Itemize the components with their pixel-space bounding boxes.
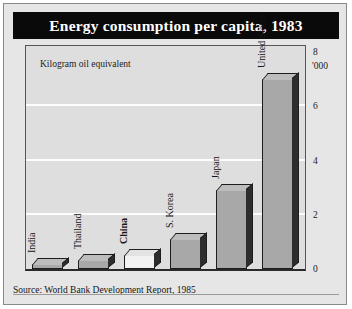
y-axis-tick-label: 8 xyxy=(313,48,318,57)
plot-annotation: Kilogram oil equivalent xyxy=(40,59,131,69)
bar-side-face xyxy=(246,183,253,268)
bar-label: India xyxy=(26,232,37,253)
bar[interactable] xyxy=(170,239,201,269)
y-axis-tick-label: 0 xyxy=(313,265,318,274)
page-title: Energy consumption per capita, 1983 xyxy=(13,12,339,39)
title-bar: Energy consumption per capita, 1983 xyxy=(13,12,339,39)
bar-label: Japan xyxy=(210,157,221,180)
bar[interactable] xyxy=(262,79,293,269)
y-axis-unit-label: '000 xyxy=(312,61,328,71)
bar-side-face xyxy=(292,72,299,268)
bar-label: S. Korea xyxy=(164,193,175,228)
footer-divider xyxy=(13,294,339,295)
bar[interactable] xyxy=(216,190,247,269)
bar[interactable] xyxy=(78,260,109,269)
y-axis-tick-label: 2 xyxy=(313,211,318,220)
bar-side-face xyxy=(200,232,207,268)
plot-area: Kilogram oil equivalent IndiaThailandChi… xyxy=(25,45,306,271)
bar-side-face xyxy=(154,249,161,268)
y-axis-tick-label: 4 xyxy=(313,157,318,166)
bar[interactable] xyxy=(32,264,63,269)
figure-panel: Energy consumption per capita, 1983 Kilo… xyxy=(3,3,347,305)
y-axis: '000 86420 xyxy=(309,45,349,277)
plot-wrapper: Kilogram oil equivalent IndiaThailandChi… xyxy=(25,45,306,271)
bar-label: China xyxy=(118,218,129,244)
y-axis-tick-label: 6 xyxy=(313,102,318,111)
bar-label: United States xyxy=(256,15,267,69)
bar[interactable] xyxy=(124,255,155,269)
bar-label: Thailand xyxy=(72,213,83,249)
